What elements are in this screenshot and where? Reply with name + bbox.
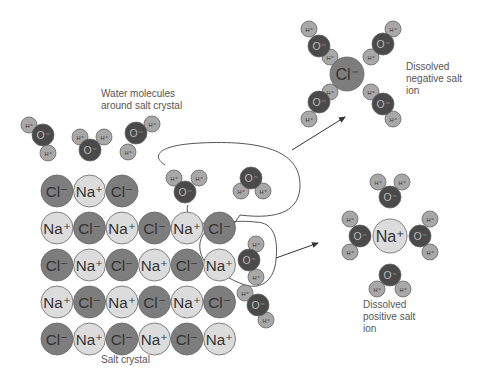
svg-text:H⁺: H⁺ bbox=[76, 135, 83, 141]
svg-text:Cl⁻: Cl⁻ bbox=[143, 294, 165, 311]
hydrogen-atom: H⁺ bbox=[422, 211, 438, 227]
svg-text:H⁺: H⁺ bbox=[241, 291, 248, 297]
sodium-ion: Na⁺ bbox=[74, 323, 106, 355]
svg-text:Cl⁻: Cl⁻ bbox=[111, 257, 133, 274]
svg-text:O⁻: O⁻ bbox=[178, 187, 191, 198]
svg-text:Cl⁻: Cl⁻ bbox=[78, 294, 100, 311]
svg-text:H⁺: H⁺ bbox=[305, 117, 312, 123]
label-line: positive salt bbox=[363, 311, 415, 323]
sodium-ion: Na⁺ bbox=[74, 249, 106, 281]
label-line: ion bbox=[363, 323, 415, 335]
svg-text:Cl⁻: Cl⁻ bbox=[208, 294, 230, 311]
svg-text:O⁻: O⁻ bbox=[83, 145, 96, 156]
svg-text:Cl⁻: Cl⁻ bbox=[46, 183, 68, 200]
label-line: Dissolved bbox=[363, 299, 415, 311]
hydrogen-atom: H⁺ bbox=[248, 269, 264, 285]
sodium-ion: Na⁺ bbox=[74, 175, 106, 207]
svg-text:Cl⁻: Cl⁻ bbox=[111, 183, 133, 200]
sodium-ion: Na⁺ bbox=[41, 286, 73, 318]
oxygen-atom: O⁻ bbox=[247, 294, 269, 316]
dissolved-sodium-ion: Na⁺ bbox=[373, 219, 407, 253]
label-line: Dissolved bbox=[406, 61, 462, 73]
svg-text:H⁺: H⁺ bbox=[367, 55, 374, 61]
oxygen-atom: O⁻ bbox=[409, 225, 431, 247]
label-line: Water molecules bbox=[101, 88, 182, 100]
svg-text:H⁺: H⁺ bbox=[346, 217, 353, 223]
svg-text:O⁻: O⁻ bbox=[244, 173, 257, 184]
svg-text:H⁺: H⁺ bbox=[252, 275, 259, 281]
svg-text:O⁻: O⁻ bbox=[129, 128, 142, 139]
oxygen-atom: O⁻ bbox=[240, 167, 262, 189]
chloride-ion: Cl⁻ bbox=[139, 286, 171, 318]
svg-text:O⁻: O⁻ bbox=[312, 97, 325, 108]
svg-text:O⁻: O⁻ bbox=[312, 41, 325, 52]
svg-text:Na⁺: Na⁺ bbox=[376, 227, 405, 245]
svg-text:Na⁺: Na⁺ bbox=[108, 220, 135, 237]
svg-text:O⁻: O⁻ bbox=[383, 270, 396, 281]
svg-text:Na⁺: Na⁺ bbox=[141, 331, 168, 348]
svg-text:H⁺: H⁺ bbox=[399, 287, 406, 293]
oxygen-atom: O⁻ bbox=[379, 264, 401, 286]
hydrogen-atom: H⁺ bbox=[120, 144, 136, 160]
chloride-ion: Cl⁻ bbox=[41, 249, 73, 281]
svg-text:O⁻: O⁻ bbox=[383, 192, 396, 203]
hydrogen-atom: H⁺ bbox=[301, 111, 317, 127]
oxygen-atom: O⁻ bbox=[349, 225, 371, 247]
svg-text:O⁻: O⁻ bbox=[251, 300, 264, 311]
svg-text:Cl⁻: Cl⁻ bbox=[111, 331, 133, 348]
oxygen-atom: O⁻ bbox=[308, 91, 330, 113]
svg-text:H⁺: H⁺ bbox=[237, 189, 244, 195]
arrow-to-negative-ion bbox=[292, 117, 345, 150]
svg-text:H⁺: H⁺ bbox=[305, 27, 312, 33]
sodium-ion: Na⁺ bbox=[171, 212, 203, 244]
chloride-ion: Cl⁻ bbox=[204, 212, 236, 244]
svg-text:H⁺: H⁺ bbox=[374, 180, 381, 186]
svg-text:Cl⁻: Cl⁻ bbox=[143, 220, 165, 237]
svg-text:H⁺: H⁺ bbox=[148, 122, 155, 128]
svg-text:Na⁺: Na⁺ bbox=[76, 331, 103, 348]
label-water-molecules: Water molecules around salt crystal bbox=[101, 88, 182, 112]
svg-text:H⁺: H⁺ bbox=[195, 176, 202, 182]
oxygen-atom: O⁻ bbox=[32, 124, 54, 146]
svg-text:Na⁺: Na⁺ bbox=[108, 294, 135, 311]
label-positive-ion: Dissolved positive salt ion bbox=[363, 299, 415, 335]
label-line: negative salt bbox=[406, 73, 462, 85]
chloride-ion: Cl⁻ bbox=[171, 323, 203, 355]
chloride-ion: Cl⁻ bbox=[106, 175, 138, 207]
sodium-ion: Na⁺ bbox=[204, 323, 236, 355]
svg-text:H⁺: H⁺ bbox=[259, 189, 266, 195]
oxygen-atom: O⁻ bbox=[238, 249, 260, 271]
svg-text:Na⁺: Na⁺ bbox=[173, 220, 200, 237]
oxygen-atom: O⁻ bbox=[372, 93, 394, 115]
svg-text:Cl⁻: Cl⁻ bbox=[46, 257, 68, 274]
svg-text:Cl⁻: Cl⁻ bbox=[176, 331, 198, 348]
svg-text:H⁺: H⁺ bbox=[25, 123, 32, 129]
oxygen-atom: O⁻ bbox=[174, 181, 196, 203]
hydrogen-atom: H⁺ bbox=[301, 21, 317, 37]
oxygen-atom: O⁻ bbox=[79, 139, 101, 161]
svg-text:H⁺: H⁺ bbox=[389, 117, 396, 123]
svg-text:H⁺: H⁺ bbox=[426, 217, 433, 223]
svg-text:H⁺: H⁺ bbox=[44, 151, 51, 157]
oxygen-atom: O⁻ bbox=[308, 35, 330, 57]
label-line: ion bbox=[406, 85, 462, 97]
svg-text:H⁺: H⁺ bbox=[170, 176, 177, 182]
sodium-ion: Na⁺ bbox=[41, 212, 73, 244]
sodium-ion: Na⁺ bbox=[106, 286, 138, 318]
svg-text:H⁺: H⁺ bbox=[346, 250, 353, 256]
chloride-ion: Cl⁻ bbox=[139, 212, 171, 244]
label-negative-ion: Dissolved negative salt ion bbox=[406, 61, 462, 97]
chloride-ion: Cl⁻ bbox=[106, 323, 138, 355]
svg-text:Cl⁻: Cl⁻ bbox=[78, 220, 100, 237]
arrow-to-positive-ion bbox=[276, 243, 318, 258]
svg-text:Na⁺: Na⁺ bbox=[43, 294, 70, 311]
svg-text:Cl⁻: Cl⁻ bbox=[335, 65, 358, 83]
chloride-ion: Cl⁻ bbox=[74, 212, 106, 244]
svg-text:Na⁺: Na⁺ bbox=[76, 257, 103, 274]
svg-text:O⁻: O⁻ bbox=[242, 255, 255, 266]
svg-text:H⁺: H⁺ bbox=[389, 27, 396, 33]
svg-text:Na⁺: Na⁺ bbox=[173, 294, 200, 311]
svg-text:H⁺: H⁺ bbox=[367, 90, 374, 96]
sodium-ion: Na⁺ bbox=[171, 286, 203, 318]
svg-text:Cl⁻: Cl⁻ bbox=[46, 331, 68, 348]
